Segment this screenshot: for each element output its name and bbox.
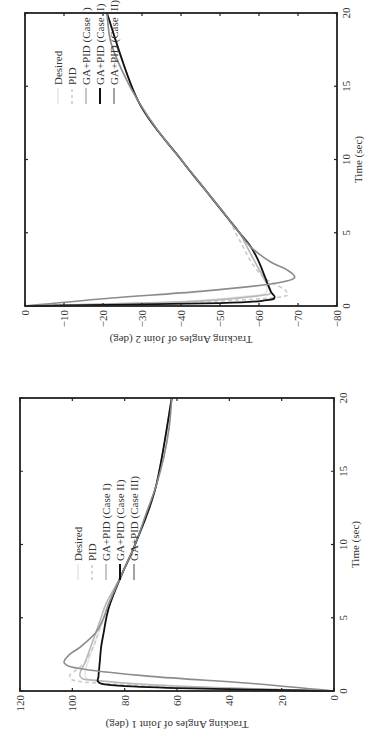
y-tick-label: 40 xyxy=(223,695,235,707)
x-tick-label: 15 xyxy=(337,465,349,477)
x-tick-label: 10 xyxy=(340,154,352,166)
legend-label-2: GA+PID (Case I) xyxy=(80,7,93,85)
x-tick-label: 5 xyxy=(340,230,352,236)
legend-label-4: GA+PID (Case III) xyxy=(108,0,121,85)
y-tick-label: −30 xyxy=(136,310,148,328)
y-axis-label: Tracking Angles of Joint 2 (deg) xyxy=(109,333,252,346)
x-tick-label: 20 xyxy=(340,7,352,19)
y-axis-label: Tracking Angles of Joint 1 (deg) xyxy=(105,718,248,731)
y-tick-label: −70 xyxy=(292,310,304,328)
legend: DesiredPIDGA+PID (Case I)GA+PID (Case II… xyxy=(72,476,141,580)
y-tick-label: 0 xyxy=(328,695,340,701)
legend-label-2: GA+PID (Case I) xyxy=(100,483,113,561)
x-tick-label: 15 xyxy=(340,80,352,92)
y-tick-label: 100 xyxy=(66,695,78,712)
x-axis-label: Time (sec) xyxy=(352,136,365,183)
y-tick-label: −60 xyxy=(253,310,265,328)
plot-lines xyxy=(25,13,295,306)
y-tick-label: −10 xyxy=(58,310,70,328)
y-tick-label: 0 xyxy=(19,310,31,316)
x-axis-label: Time (sec) xyxy=(349,521,362,568)
y-tick-label: 80 xyxy=(119,695,131,707)
joint1-chart-figure: 05101520020406080100120Time (sec)Trackin… xyxy=(0,369,376,738)
legend-label-1: PID xyxy=(86,543,98,561)
series-line-1 xyxy=(25,13,288,306)
joint2-chart-figure: 051015200−10−20−30−40−50−60−70−80Time (s… xyxy=(0,0,376,369)
y-tick-label: 60 xyxy=(171,695,183,707)
legend-label-0: Desired xyxy=(72,526,84,561)
joint1-chart: 05101520020406080100120Time (sec)Trackin… xyxy=(0,369,376,738)
x-tick-label: 20 xyxy=(337,392,349,404)
y-tick-label: −40 xyxy=(175,310,187,328)
y-tick-label: −80 xyxy=(331,310,343,328)
legend-label-3: GA+PID (Case II) xyxy=(94,3,107,85)
y-tick-label: −50 xyxy=(214,310,226,328)
legend-label-0: Desired xyxy=(52,50,64,85)
y-tick-label: 120 xyxy=(14,695,26,712)
legend-label-4: GA+PID (Case III) xyxy=(128,476,141,561)
x-tick-label: 0 xyxy=(337,688,349,694)
x-tick-label: 0 xyxy=(340,303,352,309)
plot-frame xyxy=(20,398,334,691)
joint2-chart: 051015200−10−20−30−40−50−60−70−80Time (s… xyxy=(0,0,376,369)
y-tick-label: 20 xyxy=(276,695,288,707)
legend-label-1: PID xyxy=(66,67,78,85)
legend-label-3: GA+PID (Case II) xyxy=(114,479,127,561)
x-tick-label: 5 xyxy=(337,615,349,621)
x-tick-label: 10 xyxy=(337,539,349,551)
y-tick-label: −20 xyxy=(97,310,109,328)
legend: DesiredPIDGA+PID (Case I)GA+PID (Case II… xyxy=(52,0,121,104)
